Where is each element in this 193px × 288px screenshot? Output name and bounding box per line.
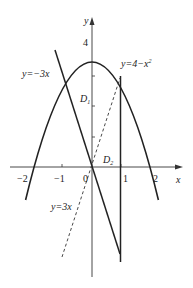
x-tick-1: 1 [123, 173, 128, 184]
function-graph-figure: y 4 x −2 −1 0 1 2 y=−3x y=4−x2 y=3x D1 D… [0, 0, 193, 288]
y-axis [90, 17, 96, 277]
y-axis-label: y [83, 15, 89, 26]
y-axis-arrow-icon [90, 17, 95, 25]
dashed-line-3x [62, 78, 120, 257]
line-neg3x [55, 50, 120, 254]
label-line-3x: y=3x [50, 201, 72, 212]
origin-label: 0 [83, 173, 88, 184]
label-parabola: y=4−x2 [120, 58, 151, 69]
x-tick-neg1: −1 [54, 173, 65, 184]
y-tick-4: 4 [83, 37, 88, 48]
region-D2-label: D2 [102, 154, 113, 166]
x-axis [10, 164, 183, 170]
label-line-neg3x: y=−3x [21, 68, 50, 79]
x-axis-label: x [175, 174, 181, 185]
x-axis-arrow-icon [175, 165, 183, 170]
x-tick-2: 2 [153, 173, 158, 184]
x-tick-neg2: −2 [17, 173, 28, 184]
region-D1-label: D1 [79, 93, 90, 105]
